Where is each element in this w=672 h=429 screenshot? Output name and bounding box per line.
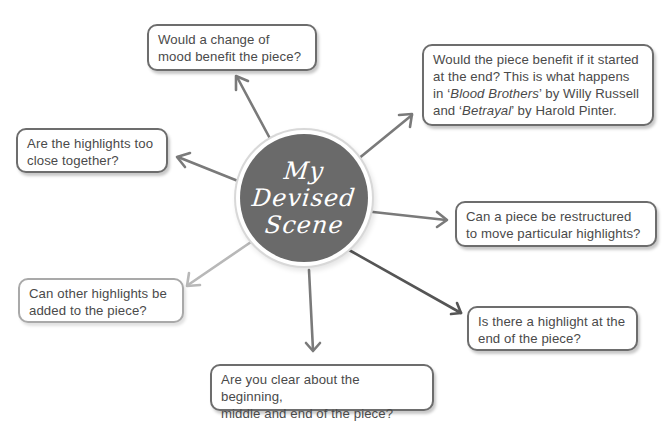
question-box-highlights-close: Are the highlights too close together?	[16, 128, 168, 173]
arrow-to-right-box	[364, 211, 447, 227]
question-box-mood-change: Would a change of mood benefit the piece…	[147, 24, 317, 71]
box-text-line: at the end? This is what happens	[433, 68, 643, 85]
play-title-betrayal: Betrayal	[462, 103, 511, 118]
text-fragment: and ‘	[433, 103, 462, 118]
box-text-line: Can other highlights be	[29, 285, 173, 302]
text-fragment: ’ by Willy Russell	[539, 86, 639, 101]
question-box-highlight-at-end: Is there a highlight at the end of the p…	[467, 306, 638, 351]
box-text-line: and ‘Betrayal’ by Harold Pinter.	[433, 102, 643, 119]
arrow-to-top-box	[236, 76, 274, 146]
box-text-line: close together?	[27, 152, 157, 169]
arrow-to-bottom-right-box	[349, 250, 461, 314]
arrow-to-left-box	[177, 153, 243, 183]
box-text-line: Can a piece be restructured	[466, 208, 646, 225]
text-fragment: ’ by Harold Pinter.	[511, 103, 617, 118]
arrow-to-bottom-left-box	[187, 242, 251, 286]
box-text-line: middle and end of the piece?	[221, 405, 423, 422]
hub-title-line-1: My	[283, 158, 326, 185]
central-hub-circle: My Devised Scene	[240, 134, 368, 262]
box-text-line: to move particular highlights?	[466, 225, 646, 242]
question-box-restructure: Can a piece be restructured to move part…	[455, 201, 657, 247]
box-text-line: Would a change of	[158, 31, 306, 48]
box-text-line: Would the piece benefit if it started	[433, 51, 643, 68]
play-title-blood-brothers: Blood Brothers	[450, 86, 539, 101]
hub-title-line-3: Scene	[263, 212, 345, 239]
arrow-to-bottom-box	[306, 270, 320, 351]
box-text-line: Are you clear about the beginning,	[221, 371, 423, 405]
box-text-line: Are the highlights too	[27, 135, 157, 152]
mind-map-diagram: My Devised Scene Would a change of mood …	[0, 0, 672, 429]
question-box-add-highlights: Can other highlights be added to the pie…	[18, 278, 184, 323]
arrow-to-top-right-box	[352, 114, 412, 164]
hub-title-line-2: Devised	[251, 185, 357, 212]
box-text-line: added to the piece?	[29, 302, 173, 319]
text-fragment: in ‘	[433, 86, 450, 101]
box-text-line: mood benefit the piece?	[158, 48, 306, 65]
box-text-line: Is there a highlight at the	[478, 313, 627, 330]
box-text-line: in ‘Blood Brothers’ by Willy Russell	[433, 85, 643, 102]
box-text-line: end of the piece?	[478, 330, 627, 347]
question-box-start-at-end: Would the piece benefit if it started at…	[422, 44, 654, 126]
question-box-beginning-middle-end: Are you clear about the beginning, middl…	[210, 364, 434, 411]
